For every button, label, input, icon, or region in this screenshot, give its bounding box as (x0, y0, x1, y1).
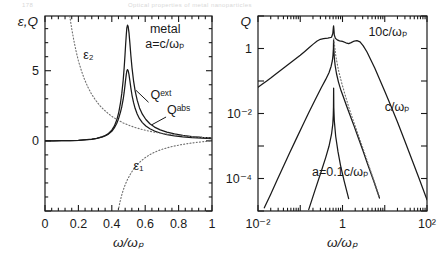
xtick-label-right-1: 1 (339, 217, 346, 231)
xtick-label-right-2: 10² (418, 217, 436, 231)
xaxis-label-right: ω/ωₚ (327, 235, 358, 250)
ytick-label-right-2: 10⁻⁴ (226, 172, 252, 186)
xtick-label-left-1: 0.2 (70, 217, 87, 231)
xaxis-label-left: ω/ωₚ (113, 235, 144, 250)
xtick-label-left-4: 0.8 (170, 217, 187, 231)
annotation-left-4: Qᵉˣᵗ (150, 88, 171, 102)
series-a=0.1c/ωp (309, 88, 349, 209)
annotation-left-1: a=c/ωₚ (145, 37, 185, 51)
xtick-label-left-0: 0 (42, 217, 49, 231)
page-header: 178 Optical properties of metal nanopart… (0, 0, 448, 13)
ytick-label-left-0: 0 (32, 134, 39, 148)
annotation-left-0: metal (150, 22, 181, 36)
ytick-label-left-1: 5 (32, 64, 39, 78)
yaxis-label-left: ε,Q (18, 14, 39, 29)
figure-panel-pair: 178 Optical properties of metal nanopart… (0, 0, 448, 273)
yaxis-label-right: Q (240, 14, 251, 29)
annotation-left-2: ε₂ (83, 48, 94, 62)
page-header-left: 178 (22, 2, 33, 8)
xtick-label-left-3: 0.6 (137, 217, 154, 231)
xtick-label-left-2: 0.4 (103, 217, 120, 231)
figure-svg: 00.20.40.60.8105ω/ωₚε,Qmetala=c/ωₚε₂ε₁Qᵉ… (0, 0, 448, 273)
leader-line-qabs (152, 117, 166, 125)
annotation-left-5: Qᵃᵇˢ (167, 103, 190, 117)
xtick-label-left-5: 1 (209, 217, 216, 231)
series-a=c/ωp (264, 40, 379, 208)
annotation-right-0: 10c/ωₚ (368, 25, 407, 39)
annotation-right-2: a=0.1c/ωₚ (312, 165, 369, 179)
annotation-right-1: c/ωₚ (385, 100, 410, 114)
series-ε₁ (118, 141, 212, 211)
annotation-left-3: ε₁ (134, 159, 144, 173)
ytick-label-right-1: 10⁻² (227, 107, 252, 121)
ytick-label-right-0: 1 (245, 42, 252, 56)
xtick-label-right-0: 10⁻² (245, 217, 270, 231)
page-header-center: Optical properties of metal nanoparticle… (128, 2, 252, 8)
series-Q^ext (45, 25, 212, 141)
